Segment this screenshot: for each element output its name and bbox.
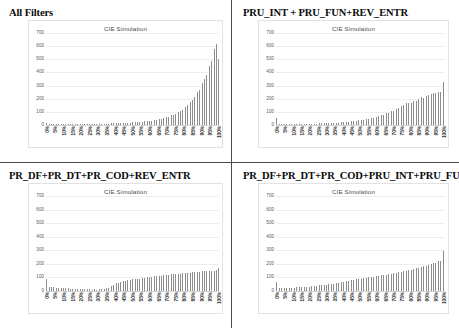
bar-series <box>46 33 219 125</box>
chart-title: CIE Simulation <box>259 21 448 33</box>
x-axis: 0%5%10%15%20%25%30%35%40%45%50%55%60%65%… <box>276 125 445 147</box>
plot-area <box>46 196 219 291</box>
y-axis-tick-label: 500 <box>36 57 44 62</box>
x-axis-slot: 100% <box>443 291 445 313</box>
panel-heading: PR_DF+PR_DT+PR_COD+REV_ENTR <box>9 169 225 182</box>
y-axis-tick-label: 600 <box>36 207 44 212</box>
figure-page: All Filters CIE Simulation 7006005004003… <box>0 0 459 328</box>
plot-wrapper: 7006005004003002001000 0%5%10%15%20%25%3… <box>29 196 222 313</box>
panel-pru-int-pru-fun-rev-entr: PRU_INT + PRU_FUN+REV_ENTR CIE Simulatio… <box>231 0 459 162</box>
chart-all-filters: CIE Simulation 7006005004003002001000 0%… <box>28 20 223 148</box>
x-axis-slot: 100% <box>218 291 220 313</box>
bar <box>218 268 220 291</box>
y-axis-tick-label: 300 <box>266 83 274 88</box>
y-axis-tick-label: 400 <box>266 234 274 239</box>
y-axis-tick-label: 300 <box>266 248 274 253</box>
x-axis-tick-label: 100% <box>216 126 221 138</box>
y-axis-tick-label: 500 <box>36 221 44 226</box>
y-axis-tick-label: 700 <box>36 194 44 199</box>
panel-grid: All Filters CIE Simulation 7006005004003… <box>0 0 459 328</box>
y-axis-tick-label: 300 <box>36 248 44 253</box>
y-axis-tick-label: 500 <box>266 221 274 226</box>
y-axis-tick-label: 600 <box>266 207 274 212</box>
x-axis-tick-label: 100% <box>442 126 447 138</box>
bar-series <box>276 33 445 125</box>
x-axis-slot: 100% <box>443 125 445 147</box>
plot-wrapper: 7006005004003002001000 0%5%10%15%20%25%3… <box>259 33 448 147</box>
plot-area <box>46 33 219 125</box>
chart-title: CIE Simulation <box>29 21 222 33</box>
y-axis-tick-label: 300 <box>36 83 44 88</box>
panel-pr-df-pr-dt-pr-cod-pru-int-pru-fun: PR_DF+PR_DT+PR_COD+PRU_INT+PRU_FUN CIE S… <box>231 162 459 328</box>
plot-wrapper: 7006005004003002001000 0%5%10%15%20%25%3… <box>259 196 448 313</box>
bar-series <box>276 196 445 291</box>
chart-title: CIE Simulation <box>259 184 448 196</box>
y-axis-tick-label: 500 <box>266 57 274 62</box>
y-axis-tick-label: 100 <box>36 110 44 115</box>
plot-wrapper: 7006005004003002001000 0%5%10%15%20%25%3… <box>29 33 222 147</box>
x-axis: 0%5%10%15%20%25%30%35%40%45%50%55%60%65%… <box>46 291 219 313</box>
y-axis-tick-label: 200 <box>36 96 44 101</box>
y-axis-tick-label: 700 <box>266 31 274 36</box>
panel-heading: All Filters <box>9 6 225 19</box>
bar <box>443 251 445 291</box>
chart-pr-df-pr-dt-pr-cod-pru-int-pru-fun: CIE Simulation 7006005004003002001000 0%… <box>258 183 449 314</box>
bar <box>443 82 445 125</box>
x-axis-slot: 100% <box>218 125 220 147</box>
panel-all-filters: All Filters CIE Simulation 7006005004003… <box>0 0 231 162</box>
plot-area <box>276 33 445 125</box>
panel-heading: PR_DF+PR_DT+PR_COD+PRU_INT+PRU_FUN <box>243 169 453 182</box>
y-axis: 7006005004003002001000 <box>259 33 275 125</box>
x-axis-tick-label: 100% <box>216 292 221 304</box>
y-axis-tick-label: 600 <box>266 44 274 49</box>
y-axis: 7006005004003002001000 <box>29 196 45 291</box>
chart-title: CIE Simulation <box>29 184 222 196</box>
bar-series <box>46 196 219 291</box>
chart-pru-int-pru-fun-rev-entr: CIE Simulation 7006005004003002001000 0%… <box>258 20 449 148</box>
y-axis-tick-label: 600 <box>36 44 44 49</box>
y-axis: 7006005004003002001000 <box>29 33 45 125</box>
chart-pr-df-pr-dt-pr-cod-rev-entr: CIE Simulation 7006005004003002001000 0%… <box>28 183 223 314</box>
x-axis: 0%5%10%15%20%25%30%35%40%45%50%55%60%65%… <box>276 291 445 313</box>
y-axis-tick-label: 100 <box>266 110 274 115</box>
y-axis-tick-label: 100 <box>36 275 44 280</box>
y-axis: 7006005004003002001000 <box>259 196 275 291</box>
x-axis: 0%5%10%15%20%25%30%35%40%45%50%55%60%65%… <box>46 125 219 147</box>
y-axis-tick-label: 700 <box>266 194 274 199</box>
panel-pr-df-pr-dt-pr-cod-rev-entr: PR_DF+PR_DT+PR_COD+REV_ENTR CIE Simulati… <box>0 162 231 328</box>
y-axis-tick-label: 200 <box>266 262 274 267</box>
y-axis-tick-label: 400 <box>266 70 274 75</box>
plot-area <box>276 196 445 291</box>
y-axis-tick-label: 200 <box>266 96 274 101</box>
y-axis-tick-label: 700 <box>36 31 44 36</box>
y-axis-tick-label: 200 <box>36 262 44 267</box>
bar <box>218 59 220 125</box>
y-axis-tick-label: 100 <box>266 275 274 280</box>
x-axis-tick-label: 100% <box>442 292 447 304</box>
y-axis-tick-label: 400 <box>36 70 44 75</box>
panel-heading: PRU_INT + PRU_FUN+REV_ENTR <box>243 6 453 19</box>
y-axis-tick-label: 400 <box>36 234 44 239</box>
